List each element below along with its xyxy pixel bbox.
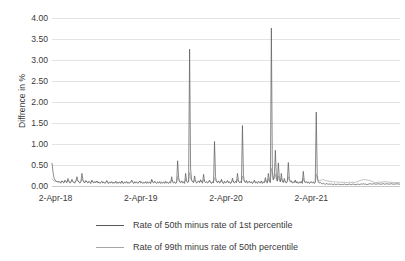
x-axis-tick-label: 2-Apr-19 (106, 193, 176, 204)
y-axis-tick-label: 1.50 (14, 118, 48, 128)
legend-item-label: Rate of 50th minus rate of 1st percentil… (133, 220, 293, 230)
y-axis-tick-labels: 4.003.503.002.502.001.501.000.500.00 (14, 12, 48, 192)
y-axis-tick-label: 0.50 (14, 160, 48, 170)
y-axis-tick-label: 0.00 (14, 181, 48, 191)
y-axis-tick-label: 2.50 (14, 76, 48, 86)
y-axis-tick-label: 1.00 (14, 139, 48, 149)
series-lines (52, 18, 400, 186)
gridline (52, 186, 400, 187)
legend-item-label: Rate of 99th minus rate of 50th percenti… (133, 242, 298, 252)
chart-legend: Rate of 50th minus rate of 1st percentil… (0, 214, 405, 258)
chart-container: Diffrence in % 4.003.503.002.502.001.501… (0, 0, 405, 261)
x-axis-tick-labels: 2-Apr-182-Apr-192-Apr-202-Apr-21 (0, 193, 405, 207)
x-axis-tick-label: 2-Apr-18 (20, 193, 90, 204)
legend-line-icon (96, 221, 124, 230)
y-axis-tick-label: 2.00 (14, 97, 48, 107)
series-line (52, 28, 400, 185)
y-axis-tick-label: 3.00 (14, 55, 48, 65)
legend-item-series-2: Rate of 99th minus rate of 50th percenti… (0, 236, 405, 258)
legend-item-series-1: Rate of 50th minus rate of 1st percentil… (0, 214, 405, 236)
legend-line-icon (96, 243, 124, 252)
y-axis-tick-label: 3.50 (14, 34, 48, 44)
plot-area (52, 18, 400, 186)
y-axis-tick-label: 4.00 (14, 13, 48, 23)
series-line (52, 168, 400, 182)
x-axis-tick-label: 2-Apr-20 (191, 193, 261, 204)
x-axis-tick-label: 2-Apr-21 (276, 193, 346, 204)
